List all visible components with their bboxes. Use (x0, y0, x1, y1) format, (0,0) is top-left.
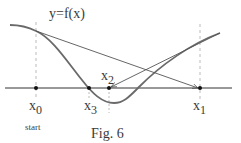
tangent-x0-to-x1 (36, 31, 198, 88)
point-x1 (198, 86, 202, 90)
point-x3 (87, 86, 91, 90)
tangent-x1-to-x2 (111, 33, 220, 87)
label-x0: x0 (29, 98, 42, 118)
start-label: start (25, 122, 41, 132)
label-x3: x3 (84, 98, 97, 118)
function-curve (10, 25, 220, 103)
point-x0 (34, 86, 38, 90)
figure-caption: Fig. 6 (91, 126, 124, 142)
label-x2: x2 (101, 68, 114, 88)
label-x1: x1 (193, 98, 206, 118)
function-label: y=f(x) (49, 6, 85, 22)
